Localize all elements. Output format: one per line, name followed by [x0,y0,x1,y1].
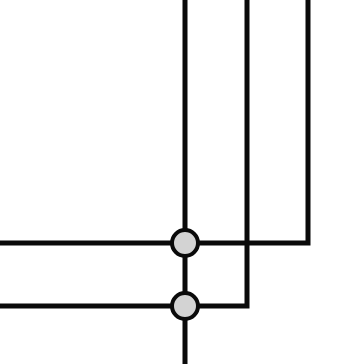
junction-upper [172,230,198,256]
junction-lower [172,293,198,319]
wiring-diagram [0,0,346,364]
